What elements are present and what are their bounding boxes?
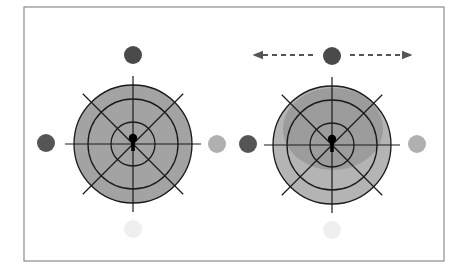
- dot-bottom: [323, 221, 341, 239]
- dot-left: [239, 135, 257, 153]
- dot-right: [408, 135, 426, 153]
- dot-top: [124, 46, 142, 64]
- dot-left: [37, 134, 55, 152]
- dot-top: [323, 47, 341, 65]
- dot-right: [208, 135, 226, 153]
- diagram-svg: [0, 0, 465, 277]
- dot-bottom: [124, 220, 142, 238]
- keyhole-stem: [131, 140, 135, 151]
- keyhole-stem: [330, 141, 334, 152]
- diagram-canvas: [0, 0, 465, 277]
